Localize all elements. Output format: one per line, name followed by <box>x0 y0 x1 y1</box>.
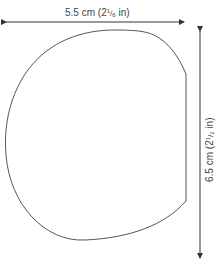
height-label: 6.5 cm (21/2 in) <box>204 117 215 182</box>
template-shape-outline <box>5 30 186 240</box>
template-diagram: 5.5 cm (21/6 in) 6.5 cm (21/2 in) <box>0 0 219 271</box>
width-label: 5.5 cm (21/6 in) <box>65 7 130 18</box>
